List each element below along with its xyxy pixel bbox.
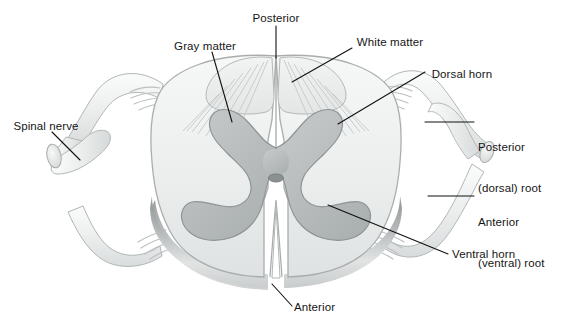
label-spinal-nerve: Spinal nerve <box>0 120 92 134</box>
label-anterior-bottom: Anterior <box>294 301 374 315</box>
label-dorsal-horn: Dorsal horn <box>412 68 512 82</box>
label-white-matter: White matter <box>338 36 442 50</box>
label-anterior-ventral-root: Anterior (ventral) root <box>478 189 570 297</box>
label-gray-matter: Gray matter <box>155 40 255 54</box>
central-canal <box>269 174 284 182</box>
label-posterior-root-line1: Posterior <box>478 141 570 155</box>
label-anterior-root-line1: Anterior <box>478 216 570 230</box>
spinal-cord-figure: Posterior Gray matter White matter Dorsa… <box>0 0 571 325</box>
label-ventral-horn: Ventral horn <box>452 248 552 262</box>
left-dorsal-root <box>68 74 163 146</box>
gray-commissure <box>263 149 289 175</box>
label-posterior-top: Posterior <box>226 12 326 26</box>
